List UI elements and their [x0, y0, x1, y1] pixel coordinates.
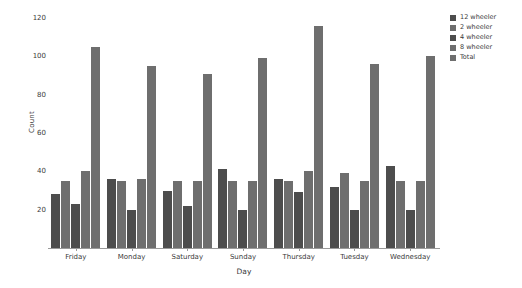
bar [203, 74, 212, 248]
x-tick-mark [243, 248, 244, 251]
bar [163, 191, 172, 249]
legend-swatch-icon [450, 15, 456, 21]
x-tick-mark [354, 248, 355, 251]
bar-group [104, 18, 160, 248]
bar [248, 181, 257, 248]
bar-group [271, 18, 327, 248]
x-tick-mark [299, 248, 300, 251]
bar [183, 206, 192, 248]
plot-area [48, 18, 438, 248]
bar [107, 179, 116, 248]
bar [81, 171, 90, 248]
bar [386, 166, 395, 248]
y-tick-label: 100 [12, 53, 46, 60]
x-tick-mark [187, 248, 188, 251]
bar [360, 181, 369, 248]
bar [350, 210, 359, 248]
x-tick-label: Saturday [172, 253, 204, 261]
legend-item[interactable]: 4 wheeler [450, 33, 518, 42]
x-tick-label: Wednesday [390, 253, 431, 261]
x-tick-label: Sunday [230, 253, 256, 261]
y-tick-label: 80 [12, 91, 46, 98]
bar [330, 187, 339, 248]
bar [284, 181, 293, 248]
y-tick-label: 20 [12, 206, 46, 213]
bar [370, 64, 379, 248]
bar-group [159, 18, 215, 248]
bar [117, 181, 126, 248]
bar [406, 210, 415, 248]
bar [340, 173, 349, 248]
bar [228, 181, 237, 248]
x-tick-mark [76, 248, 77, 251]
x-tick-mark [410, 248, 411, 251]
bar-group [215, 18, 271, 248]
bar [238, 210, 247, 248]
legend-item[interactable]: 12 wheeler [450, 13, 518, 22]
bar [294, 192, 303, 248]
bar [137, 179, 146, 248]
legend-label: 4 wheeler [460, 34, 492, 41]
legend-label: 8 wheeler [460, 44, 492, 51]
bar [396, 181, 405, 248]
legend-item[interactable]: 2 wheeler [450, 23, 518, 32]
x-axis-title: Day [48, 267, 440, 276]
y-axis-ticks: 20406080100120 [6, 0, 46, 288]
x-axis-line [48, 248, 440, 249]
y-tick-label: 40 [12, 168, 46, 175]
bar [218, 169, 227, 248]
legend-label: 12 wheeler [460, 14, 496, 21]
bar-group [382, 18, 438, 248]
bar [258, 58, 267, 248]
bar [314, 26, 323, 248]
legend-item[interactable]: 8 wheeler [450, 43, 518, 52]
bar [71, 204, 80, 248]
x-tick-label: Monday [118, 253, 146, 261]
x-tick-label: Friday [65, 253, 86, 261]
bar-group [327, 18, 383, 248]
bar [193, 181, 202, 248]
y-tick-label: 120 [12, 15, 46, 22]
legend-label: 2 wheeler [460, 24, 492, 31]
bar [416, 181, 425, 248]
x-tick-label: Tuesday [340, 253, 368, 261]
bar [173, 181, 182, 248]
bar-chart: Count 20406080100120 FridayMondaySaturda… [0, 0, 522, 288]
x-tick-label: Thursday [282, 253, 315, 261]
y-tick-label: 60 [12, 130, 46, 137]
chart-legend: 12 wheeler2 wheeler4 wheeler8 wheelerTot… [450, 13, 518, 63]
bar [51, 194, 60, 248]
legend-item[interactable]: Total [450, 53, 518, 62]
bar [127, 210, 136, 248]
bar [426, 56, 435, 248]
legend-swatch-icon [450, 45, 456, 51]
bar [274, 179, 283, 248]
bar [304, 171, 313, 248]
bar-group [48, 18, 104, 248]
bar [61, 181, 70, 248]
bar [147, 66, 156, 248]
legend-label: Total [460, 54, 475, 61]
x-tick-mark [132, 248, 133, 251]
legend-swatch-icon [450, 35, 456, 41]
bar [91, 47, 100, 248]
legend-swatch-icon [450, 25, 456, 31]
legend-swatch-icon [450, 55, 456, 61]
